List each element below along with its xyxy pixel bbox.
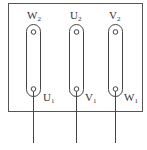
label-v2: V2 [109,9,121,23]
label-w1: W1 [124,91,138,105]
link-bar-3 [109,25,123,97]
label-w2: W2 [27,9,41,23]
terminal-v2 [113,30,118,35]
label-u2: U2 [70,9,82,23]
terminal-w1 [113,87,118,92]
link-bar-1 [27,25,41,97]
label-u1: U1 [43,91,55,105]
label-v1: V1 [85,91,97,105]
link-bar-2 [70,25,84,97]
terminal-w2 [31,30,36,35]
terminal-v1 [74,87,79,92]
terminal-box-diagram: W2 U2 V2 U1 V1 W1 [0,0,147,150]
terminal-u1 [31,87,36,92]
terminal-u2 [74,30,79,35]
